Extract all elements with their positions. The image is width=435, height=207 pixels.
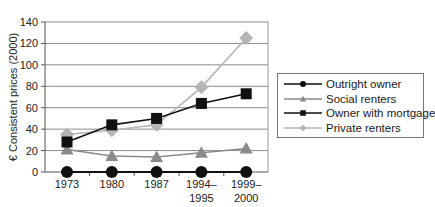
circle-marker-icon bbox=[300, 81, 306, 87]
legend-swatch-icon bbox=[284, 93, 322, 105]
square-marker-icon bbox=[151, 113, 162, 124]
square-marker-icon bbox=[300, 111, 306, 117]
legend-item: Social renters bbox=[284, 92, 423, 107]
square-marker-icon bbox=[241, 88, 252, 99]
x-tick-label: 1987 bbox=[144, 178, 168, 190]
diamond-marker-icon bbox=[300, 124, 307, 131]
y-tick-label: 120 bbox=[20, 37, 38, 49]
square-marker-icon bbox=[196, 98, 207, 109]
legend-label: Social renters bbox=[326, 93, 396, 105]
legend-swatch-icon bbox=[284, 122, 322, 134]
circle-marker-icon bbox=[240, 166, 252, 178]
y-tick-label: 0 bbox=[32, 166, 38, 178]
x-tick-label: 1995 bbox=[189, 192, 213, 204]
circle-marker-icon bbox=[106, 166, 118, 178]
y-tick-label: 80 bbox=[26, 80, 38, 92]
legend-label: Private renters bbox=[326, 122, 401, 134]
legend-swatch-icon bbox=[284, 107, 322, 119]
series-lines bbox=[60, 31, 253, 178]
x-tick-label: 2000 bbox=[234, 192, 258, 204]
square-marker-icon bbox=[62, 137, 73, 148]
series-owner-with-mortgage bbox=[62, 88, 252, 147]
y-axis-ticks: 020406080100120140 bbox=[20, 16, 45, 178]
y-tick-label: 60 bbox=[26, 102, 38, 114]
chart-legend: Outright ownerSocial rentersOwner with m… bbox=[277, 73, 424, 138]
circle-marker-icon bbox=[195, 166, 207, 178]
y-tick-label: 40 bbox=[26, 123, 38, 135]
legend-item: Outright owner bbox=[284, 77, 423, 92]
legend-swatch-icon bbox=[284, 78, 322, 90]
y-tick-label: 20 bbox=[26, 145, 38, 157]
series-outright-owner bbox=[61, 166, 252, 178]
legend-item: Owner with mortgage bbox=[284, 106, 423, 121]
series-social-renters bbox=[61, 142, 253, 162]
x-tick-label: 1994– bbox=[186, 178, 217, 190]
circle-marker-icon bbox=[61, 166, 73, 178]
y-tick-label: 100 bbox=[20, 59, 38, 71]
circle-marker-icon bbox=[151, 166, 163, 178]
y-tick-label: 140 bbox=[20, 16, 38, 28]
x-tick-label: 1980 bbox=[100, 178, 124, 190]
square-marker-icon bbox=[106, 119, 117, 130]
x-tick-label: 1973 bbox=[55, 178, 79, 190]
legend-item: Private renters bbox=[284, 121, 423, 136]
triangle-marker-icon bbox=[240, 142, 253, 154]
y-axis-label: € Consistent prices (2000) bbox=[7, 33, 19, 161]
x-tick-label: 1999– bbox=[231, 178, 262, 190]
legend-label: Owner with mortgage bbox=[326, 107, 435, 119]
legend-label: Outright owner bbox=[326, 78, 401, 90]
